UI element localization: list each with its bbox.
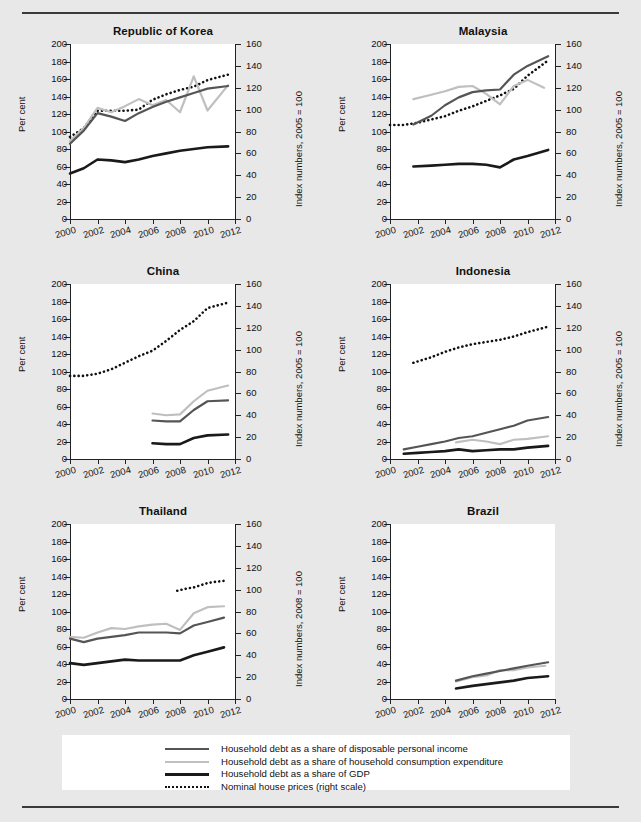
legend-label: Household debt as a share of disposable … bbox=[221, 743, 468, 754]
series-layer bbox=[390, 284, 555, 459]
y-axis-title-left: Per cent bbox=[336, 97, 347, 132]
y-tick-label-right: 60 bbox=[246, 387, 257, 398]
x-tick-label: 2000 bbox=[374, 704, 397, 720]
y-tick-label-left: 60 bbox=[376, 401, 387, 412]
x-tick-label: 2012 bbox=[539, 704, 562, 720]
series-line-gdp bbox=[70, 146, 228, 173]
x-tick-label: 2002 bbox=[81, 464, 104, 480]
y-tick-label-right: 40 bbox=[246, 169, 257, 180]
y-axis-title-left: Per cent bbox=[336, 577, 347, 612]
y-tick-label-right: 0 bbox=[246, 453, 251, 464]
y-tick-label-left: 40 bbox=[56, 178, 67, 189]
y-tick-label-left: 100 bbox=[51, 126, 67, 137]
legend-item: Household debt as a share of disposable … bbox=[165, 742, 468, 755]
y-tick-label-left: 60 bbox=[56, 401, 67, 412]
x-tick bbox=[208, 459, 209, 464]
y-tick-label-left: 180 bbox=[371, 536, 387, 547]
x-tick bbox=[70, 459, 71, 464]
y-tick-label-left: 180 bbox=[51, 536, 67, 547]
y-tick-label-left: 0 bbox=[382, 213, 387, 224]
x-tick-label: 2010 bbox=[191, 704, 214, 720]
y-tick-label-right: 20 bbox=[246, 431, 257, 442]
y-tick-right bbox=[235, 306, 241, 307]
x-tick-label: 2004 bbox=[429, 464, 452, 480]
panel-title: Malaysia bbox=[328, 25, 638, 37]
y-tick-label-right: 100 bbox=[246, 584, 262, 595]
x-tick bbox=[418, 459, 419, 464]
y-tick-label-left: 40 bbox=[376, 418, 387, 429]
y-tick-right bbox=[555, 350, 561, 351]
y-tick-right bbox=[235, 66, 241, 67]
y-tick-label-left: 100 bbox=[51, 366, 67, 377]
panel-title: Indonesia bbox=[328, 265, 638, 277]
x-tick-label: 2006 bbox=[456, 224, 479, 240]
x-tick bbox=[390, 459, 391, 464]
x-tick bbox=[180, 459, 181, 464]
x-tick-label: 2002 bbox=[81, 704, 104, 720]
legend-swatch-hce bbox=[165, 756, 209, 767]
y-tick-right bbox=[235, 197, 241, 198]
y-tick-label-left: 20 bbox=[56, 436, 67, 447]
y-tick-label-right: 60 bbox=[566, 387, 577, 398]
series-layer bbox=[70, 524, 235, 699]
x-tick bbox=[153, 699, 154, 704]
y-tick-right bbox=[555, 284, 561, 285]
series-line-gdp bbox=[404, 446, 548, 454]
y-tick-label-right: 40 bbox=[566, 409, 577, 420]
y-tick-label-left: 200 bbox=[51, 518, 67, 529]
x-tick bbox=[473, 219, 474, 224]
x-tick bbox=[235, 459, 236, 464]
x-tick bbox=[180, 699, 181, 704]
x-tick bbox=[98, 219, 99, 224]
y-tick-label-right: 0 bbox=[566, 213, 571, 224]
chart-panel: Republic of Korea02040608010012014016018… bbox=[8, 22, 318, 262]
y-tick-label-right: 140 bbox=[566, 300, 582, 311]
y-tick-right bbox=[555, 110, 561, 111]
y-tick-right bbox=[235, 284, 241, 285]
x-tick-label: 2010 bbox=[511, 704, 534, 720]
y-tick-label-right: 0 bbox=[246, 693, 251, 704]
y-tick-label-left: 80 bbox=[376, 143, 387, 154]
x-tick-label: 2000 bbox=[54, 704, 77, 720]
y-tick-label-right: 120 bbox=[566, 322, 582, 333]
x-tick-label: 2012 bbox=[219, 224, 242, 240]
y-tick-label-left: 20 bbox=[56, 196, 67, 207]
x-tick bbox=[208, 219, 209, 224]
y-tick-label-right: 80 bbox=[246, 606, 257, 617]
y-tick-label-left: 160 bbox=[51, 313, 67, 324]
x-tick-label: 2000 bbox=[374, 464, 397, 480]
x-tick bbox=[555, 219, 556, 224]
y-tick-label-left: 140 bbox=[51, 571, 67, 582]
x-tick-label: 2004 bbox=[109, 224, 132, 240]
y-tick-label-left: 180 bbox=[371, 56, 387, 67]
y-tick-label-left: 120 bbox=[371, 348, 387, 359]
y-axis-title-right: Index numbers, 2005 = 100 bbox=[293, 331, 304, 447]
y-tick-right bbox=[555, 306, 561, 307]
x-tick bbox=[418, 699, 419, 704]
x-tick bbox=[153, 459, 154, 464]
y-tick-right bbox=[235, 612, 241, 613]
y-tick-right bbox=[235, 350, 241, 351]
y-tick-label-left: 100 bbox=[371, 606, 387, 617]
y-axis-title-right: Index numbers, 2008 = 100 bbox=[293, 571, 304, 687]
series-line-gdp bbox=[70, 647, 224, 665]
series-layer bbox=[70, 284, 235, 459]
y-tick-label-right: 140 bbox=[566, 60, 582, 71]
y-tick-right bbox=[235, 415, 241, 416]
legend-item: Household debt as a share of GDP bbox=[165, 767, 370, 780]
y-tick-label-right: 0 bbox=[566, 453, 571, 464]
x-tick bbox=[445, 699, 446, 704]
legend-item: Nominal house prices (right scale) bbox=[165, 780, 366, 793]
y-tick-right bbox=[235, 110, 241, 111]
y-tick-label-left: 120 bbox=[371, 108, 387, 119]
x-tick-label: 2004 bbox=[429, 704, 452, 720]
y-tick-right bbox=[555, 372, 561, 373]
legend-label: Household debt as a share of household c… bbox=[221, 756, 503, 767]
x-tick bbox=[555, 459, 556, 464]
x-tick-label: 2008 bbox=[164, 704, 187, 720]
series-layer bbox=[70, 44, 235, 219]
y-tick-label-left: 80 bbox=[376, 623, 387, 634]
x-tick-label: 2012 bbox=[539, 224, 562, 240]
y-tick-label-left: 160 bbox=[51, 73, 67, 84]
y-tick-label-left: 80 bbox=[56, 383, 67, 394]
